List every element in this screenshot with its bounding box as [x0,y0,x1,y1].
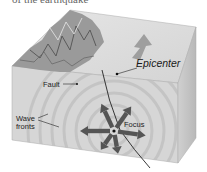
block-diagram-illustration [0,0,207,172]
epicenter-dot [116,73,119,76]
wave-fronts-label: Wave fronts [16,115,35,131]
epicenter-label: Epicenter [136,59,180,67]
focus-dot [112,129,115,132]
wave-fronts-label-line2: fronts [16,123,35,131]
focus-label: Focus [124,121,144,129]
earthquake-diagram: of the earthquake [0,0,207,172]
fault-label: Fault [43,81,60,89]
